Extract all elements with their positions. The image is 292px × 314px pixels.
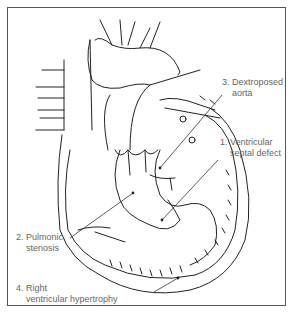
- label-right-ventricular-hypertrophy: 4. Right ventricular hypertrophy: [16, 283, 118, 305]
- label-pulmonic-stenosis: 2. Pulmonic stenosis: [16, 232, 63, 254]
- label-dextroposed-aorta: 3. Dextroposed aorta: [222, 77, 283, 99]
- label-ventricular-septal-defect: 1. Ventricular septal defect: [220, 137, 281, 159]
